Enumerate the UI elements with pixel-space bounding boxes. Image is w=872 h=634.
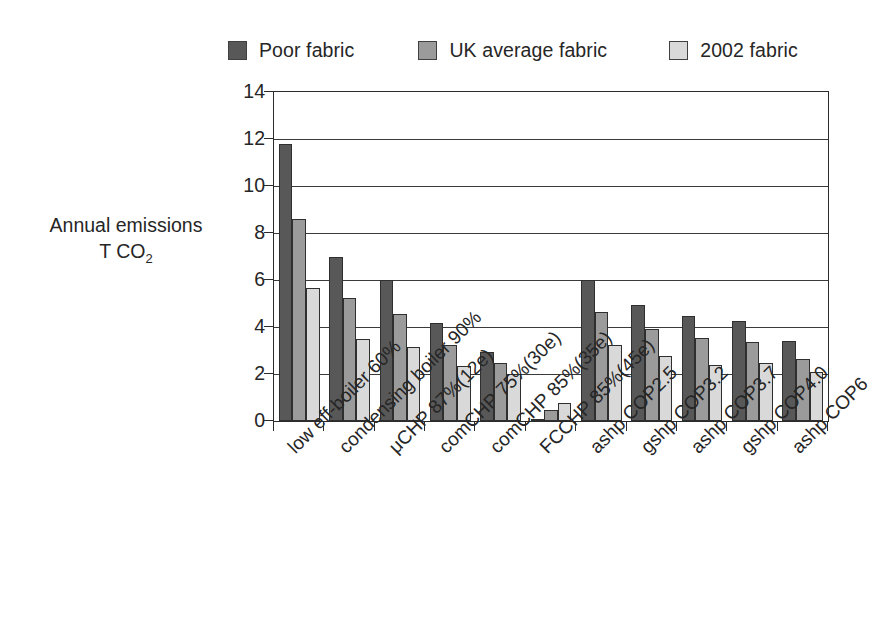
y-tick-label: 6 <box>225 268 265 291</box>
y-tick-mark <box>264 326 273 327</box>
y-tick-label: 14 <box>225 80 265 103</box>
x-tick-mark <box>827 421 828 431</box>
y-tick-label: 4 <box>225 315 265 338</box>
y-tick-label: 0 <box>225 409 265 432</box>
y-axis-title-unit: T CO <box>99 240 145 262</box>
legend-swatch-icon <box>418 41 437 60</box>
legend-item-1[interactable]: UK average fabric <box>418 39 607 62</box>
bar[interactable] <box>279 144 293 421</box>
legend-item-2[interactable]: 2002 fabric <box>669 39 798 62</box>
x-tick-mark <box>474 421 475 431</box>
x-tick-mark <box>273 421 274 431</box>
chart-legend: Poor fabricUK average fabric2002 fabric <box>228 33 848 67</box>
y-tick-mark <box>264 185 273 186</box>
legend-swatch-icon <box>669 41 688 60</box>
y-axis-title-subscript: 2 <box>146 251 153 266</box>
bar[interactable] <box>292 219 306 421</box>
y-axis-title-line1: Annual emissions <box>36 212 216 238</box>
y-tick-mark <box>264 91 273 92</box>
y-tick-mark <box>264 232 273 233</box>
y-tick-mark <box>264 138 273 139</box>
y-tick-mark <box>264 420 273 421</box>
y-tick-mark <box>264 279 273 280</box>
legend-item-label: Poor fabric <box>259 39 354 62</box>
y-axis-title: Annual emissions T CO2 <box>36 212 216 272</box>
x-tick-mark <box>575 421 576 431</box>
x-tick-mark <box>525 421 526 431</box>
y-tick-label: 12 <box>225 127 265 150</box>
bar[interactable] <box>306 288 320 421</box>
bar-group <box>274 92 324 421</box>
legend-item-label: 2002 fabric <box>700 39 798 62</box>
x-tick-mark <box>323 421 324 431</box>
y-axis-title-line2: T CO2 <box>36 238 216 272</box>
legend-item-label: UK average fabric <box>449 39 607 62</box>
x-tick-mark <box>374 421 375 431</box>
x-tick-mark <box>626 421 627 431</box>
x-tick-mark <box>726 421 727 431</box>
x-tick-mark <box>424 421 425 431</box>
x-tick-mark <box>777 421 778 431</box>
y-tick-mark <box>264 373 273 374</box>
y-axis-ticks: 02468101214 <box>213 0 265 634</box>
x-tick-mark <box>676 421 677 431</box>
y-tick-label: 2 <box>225 362 265 385</box>
y-tick-label: 10 <box>225 174 265 197</box>
y-tick-label: 8 <box>225 221 265 244</box>
